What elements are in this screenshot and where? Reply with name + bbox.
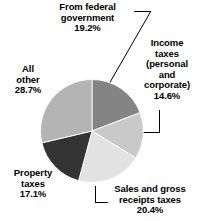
leader-line-sales-vertical bbox=[95, 186, 96, 203]
slice-label-allother-line2: other bbox=[16, 74, 39, 85]
slice-label-allother-line1: All bbox=[22, 63, 34, 74]
leader-line-federal-diagonal bbox=[105, 10, 151, 86]
slice-value-property-taxes: 17.1% bbox=[0, 189, 66, 200]
slice-label-income-line1: Income bbox=[151, 37, 184, 48]
slice-label-income-line3: (personal bbox=[146, 58, 188, 69]
slice-value-sales-receipts-taxes: 20.4% bbox=[102, 205, 198, 216]
leader-line-sales-horizontal bbox=[95, 202, 108, 203]
slice-label-income-line2: taxes bbox=[155, 48, 179, 59]
slice-label-sales-line2: receipts taxes bbox=[119, 194, 181, 205]
slice-label-income-line4: and bbox=[159, 69, 176, 80]
pie-svg bbox=[40, 79, 144, 183]
pie-slices-group bbox=[40, 80, 143, 183]
pie-graphic bbox=[40, 79, 144, 183]
pie-chart-figure: From federal government 19.2% Income tax… bbox=[0, 0, 199, 221]
slice-label-sales-receipts-taxes: Sales and gross receipts taxes 20.4% bbox=[102, 184, 198, 216]
slice-label-sales-line1: Sales and gross bbox=[114, 183, 185, 194]
slice-value-income-taxes: 14.6% bbox=[137, 91, 197, 102]
leader-line-income-vertical bbox=[159, 110, 160, 133]
